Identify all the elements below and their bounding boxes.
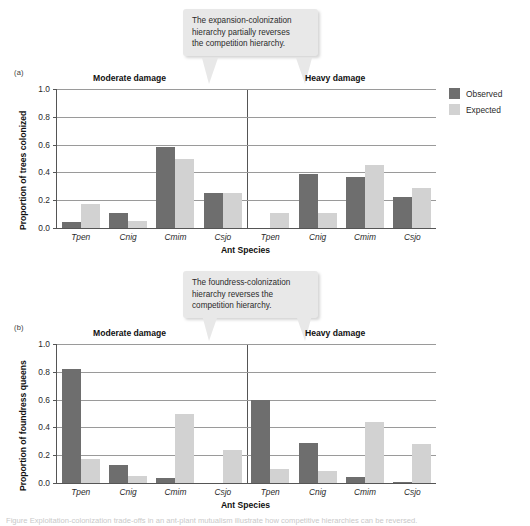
x-tick-label: Cnig — [294, 232, 341, 242]
bar-observed[interactable] — [299, 174, 318, 228]
y-tick-label: 0.0 — [38, 478, 50, 488]
legend-item-observed: Observed — [449, 88, 502, 99]
x-tick-label: Csjo — [389, 232, 436, 242]
bar-group: Cmim — [152, 89, 199, 228]
bar-expected[interactable] — [412, 188, 431, 228]
bar-observed[interactable] — [109, 465, 128, 483]
panel-b: (b) The foundress-colonization hierarchy… — [0, 263, 530, 526]
panel-b-plot-area: 0.00.20.40.60.81.0TpenCnigCmimCsjoTpenCn… — [56, 344, 436, 484]
bar-expected[interactable] — [81, 459, 100, 483]
panel-b-x-axis-title: Ant Species — [56, 500, 435, 510]
x-tick-label: Cnig — [104, 232, 151, 242]
y-tick-label: 0.8 — [38, 367, 50, 377]
y-tick-label: 0.6 — [38, 395, 50, 405]
bar-group: Cmim — [152, 344, 199, 483]
bar-group: Csjo — [199, 344, 246, 483]
bar-observed[interactable] — [156, 147, 175, 228]
panel-a-y-axis-title: Proportion of trees colonized — [18, 111, 28, 230]
bar-observed[interactable] — [346, 177, 365, 228]
y-tick-label: 0.4 — [38, 422, 50, 432]
bar-observed[interactable] — [299, 443, 318, 483]
bar-observed[interactable] — [109, 213, 128, 228]
x-tick-label: Cmim — [341, 232, 388, 242]
bar-expected[interactable] — [318, 213, 337, 228]
bar-group: Cmim — [341, 89, 388, 228]
panel-b-letter: (b) — [14, 323, 24, 332]
bar-group: Cnig — [294, 89, 341, 228]
bar-expected[interactable] — [223, 450, 242, 483]
y-tick-mark — [53, 228, 57, 229]
legend-label-observed: Observed — [466, 89, 502, 99]
bar-expected[interactable] — [81, 204, 100, 228]
panel-a-subplot-title-heavy: Heavy damage — [305, 73, 365, 83]
bar-expected[interactable] — [128, 476, 147, 483]
x-tick-label: Cmim — [152, 487, 199, 497]
callout-line-2: hierarchy reverses the — [192, 289, 310, 301]
x-tick-label: Tpen — [247, 232, 294, 242]
bar-group: Csjo — [199, 89, 246, 228]
x-tick-label: Tpen — [247, 487, 294, 497]
bar-observed[interactable] — [251, 400, 270, 483]
bar-expected[interactable] — [223, 193, 242, 228]
y-tick-label: 0.6 — [38, 140, 50, 150]
bar-group: Tpen — [247, 344, 294, 483]
bar-expected[interactable] — [270, 469, 289, 483]
bar-observed[interactable] — [156, 478, 175, 483]
callout-line-2: hierarchy partially reverses — [192, 27, 310, 39]
x-tick-label: Cnig — [104, 487, 151, 497]
bar-observed[interactable] — [204, 193, 223, 228]
panel-a-letter: (a) — [14, 68, 24, 77]
bar-observed[interactable] — [346, 477, 365, 483]
figure-root: (a) The expansion-colonization hierarchy… — [0, 0, 530, 526]
panel-a-x-axis-title: Ant Species — [56, 245, 435, 255]
bar-expected[interactable] — [175, 159, 194, 229]
bar-group: Tpen — [247, 89, 294, 228]
y-tick-label: 1.0 — [38, 84, 50, 94]
bar-expected[interactable] — [175, 414, 194, 484]
y-tick-label: 0.0 — [38, 223, 50, 233]
bar-observed[interactable] — [393, 482, 412, 483]
bar-observed[interactable] — [62, 369, 81, 483]
x-tick-label: Csjo — [199, 487, 246, 497]
y-tick-mark — [53, 483, 57, 484]
bar-group: Csjo — [389, 344, 436, 483]
y-tick-label: 0.8 — [38, 112, 50, 122]
bar-expected[interactable] — [365, 165, 384, 228]
bar-observed[interactable] — [62, 222, 81, 228]
x-tick-label: Tpen — [57, 487, 104, 497]
y-tick-label: 0.2 — [38, 195, 50, 205]
y-tick-label: 0.4 — [38, 167, 50, 177]
legend: Observed Expected — [449, 88, 502, 120]
bar-observed[interactable] — [393, 197, 412, 228]
bar-expected[interactable] — [365, 422, 384, 483]
bar-group: Cnig — [104, 344, 151, 483]
callout-line-1: The foundress-colonization — [192, 277, 310, 289]
panel-b-callout: The foundress-colonization hierarchy rev… — [183, 271, 318, 318]
panel-a-subplot-title-moderate: Moderate damage — [93, 73, 166, 83]
bar-expected[interactable] — [412, 444, 431, 483]
legend-swatch-expected-icon — [449, 104, 460, 115]
panel-a-callout-tail-left — [202, 58, 218, 84]
legend-swatch-observed-icon — [449, 88, 460, 99]
panel-a: (a) The expansion-colonization hierarchy… — [0, 0, 530, 263]
bar-group: Cnig — [294, 344, 341, 483]
y-tick-label: 0.2 — [38, 450, 50, 460]
bar-expected[interactable] — [270, 213, 289, 228]
bar-expected[interactable] — [318, 471, 337, 484]
bar-expected[interactable] — [128, 221, 147, 228]
callout-line-3: competition hierarchy. — [192, 300, 310, 312]
legend-label-expected: Expected — [466, 105, 501, 115]
figure-caption-sliver: Figure Exploitation-colonization trade-o… — [6, 516, 526, 525]
x-tick-label: Cnig — [294, 487, 341, 497]
x-tick-label: Cmim — [152, 232, 199, 242]
panel-b-subplot-title-heavy: Heavy damage — [305, 328, 365, 338]
callout-line-3: the competition hierarchy. — [192, 38, 310, 50]
bar-group: Csjo — [389, 89, 436, 228]
panel-b-subplot-title-moderate: Moderate damage — [93, 328, 166, 338]
panel-a-plot-area: 0.00.20.40.60.81.0TpenCnigCmimCsjoTpenCn… — [56, 89, 436, 229]
bar-group: Tpen — [57, 89, 104, 228]
x-tick-label: Tpen — [57, 232, 104, 242]
bar-group: Cmim — [341, 344, 388, 483]
x-tick-label: Csjo — [199, 232, 246, 242]
panel-a-callout: The expansion-colonization hierarchy par… — [183, 9, 318, 56]
